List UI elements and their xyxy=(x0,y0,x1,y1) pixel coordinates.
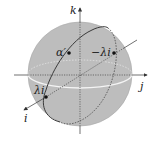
point-neg-lambda-i xyxy=(112,51,116,55)
k-axis-label: k xyxy=(70,4,77,17)
lambda-i-label: λi xyxy=(33,84,45,97)
sphere-diagram: k j i α′ −λi λi xyxy=(0,0,158,142)
j-axis-label: j xyxy=(137,80,144,93)
neg-lambda-i-label: −λi xyxy=(91,46,111,59)
point-alpha-prime xyxy=(67,51,71,55)
alpha-prime-label: α′ xyxy=(56,46,66,59)
i-axis-label: i xyxy=(24,112,28,125)
i-axis-back xyxy=(124,40,137,48)
point-lambda-i xyxy=(44,95,48,99)
